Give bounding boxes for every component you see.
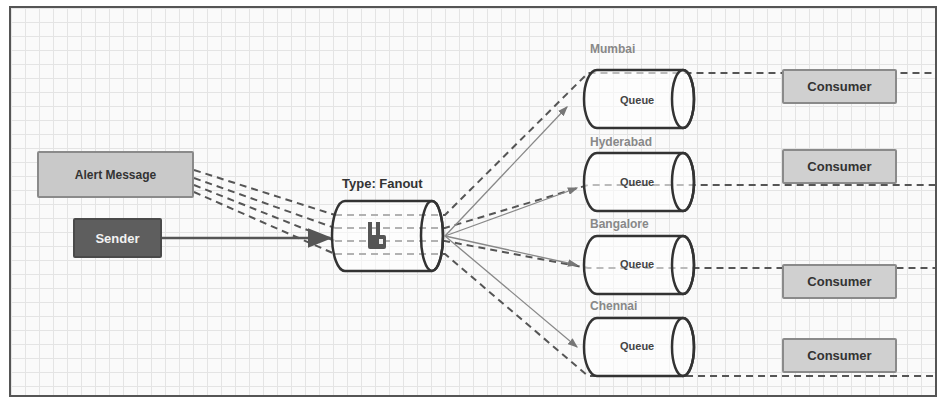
- message-path-lines: [194, 73, 935, 376]
- consumer-chennai[interactable]: Consumer: [782, 338, 897, 373]
- queue-label-bangalore: Queue: [620, 258, 654, 270]
- consumer-bangalore[interactable]: Consumer: [782, 264, 897, 299]
- exchange-cylinder[interactable]: [332, 201, 443, 271]
- queue-name-chennai: Chennai: [590, 299, 637, 313]
- consumer-mumbai[interactable]: Consumer: [782, 69, 897, 104]
- queue-label-mumbai: Queue: [620, 94, 654, 106]
- queue-label-chennai: Queue: [620, 340, 654, 352]
- queue-name-bangalore: Bangalore: [590, 217, 649, 231]
- queue-name-hyderabad: Hyderabad: [590, 135, 652, 149]
- alert-message-box[interactable]: Alert Message: [37, 151, 194, 198]
- queue-label-hyderabad: Queue: [620, 176, 654, 188]
- sender-box[interactable]: Sender: [73, 218, 162, 258]
- queue-name-mumbai: Mumbai: [590, 42, 635, 56]
- consumer-hyderabad[interactable]: Consumer: [782, 149, 897, 184]
- exchange-type-label: Type: Fanout: [342, 176, 423, 191]
